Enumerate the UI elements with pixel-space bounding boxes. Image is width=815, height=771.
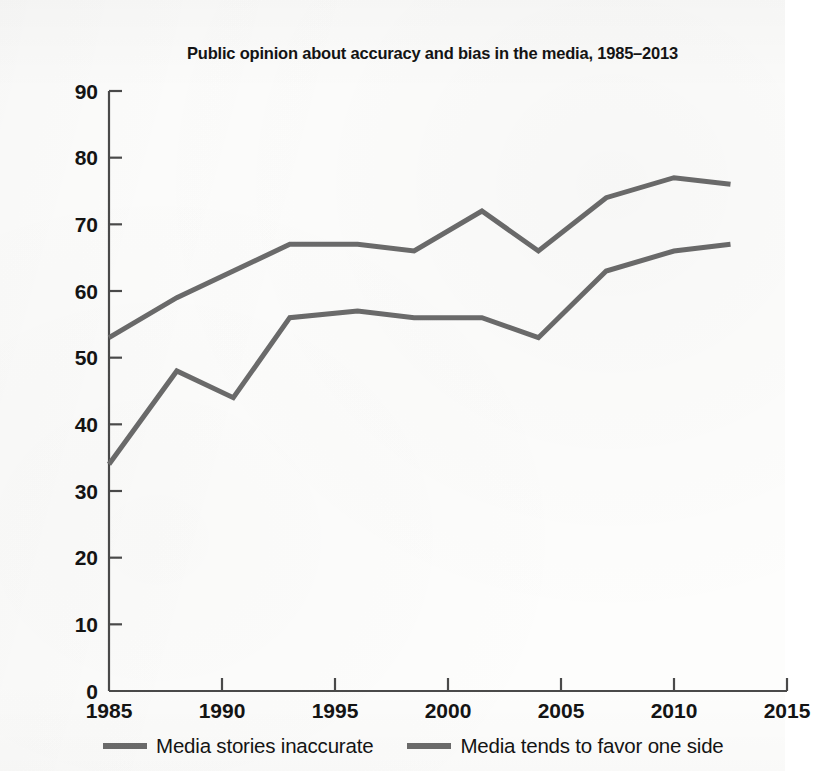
x-tick-label: 2000 bbox=[425, 699, 472, 722]
x-tick-label: 2005 bbox=[538, 699, 585, 722]
x-axis: 1985199019952000200520102015 bbox=[86, 678, 811, 722]
y-tick-label: 10 bbox=[75, 613, 98, 636]
y-tick-label: 50 bbox=[75, 346, 98, 369]
y-tick-label: 70 bbox=[75, 213, 98, 236]
y-axis: 0102030405060708090 bbox=[75, 80, 122, 703]
legend-swatch-icon bbox=[407, 743, 451, 749]
series-line-media-tends-to-favor-one-side bbox=[109, 244, 731, 464]
y-tick-label: 30 bbox=[75, 480, 98, 503]
x-tick-label: 1990 bbox=[199, 699, 246, 722]
legend-item-1: Media stories inaccurate bbox=[103, 734, 373, 758]
x-tick-label: 1985 bbox=[86, 699, 133, 722]
x-tick-label: 2015 bbox=[764, 699, 811, 722]
series-lines bbox=[109, 178, 731, 465]
y-tick-label: 40 bbox=[75, 413, 98, 436]
chart-legend: Media stories inaccurateMedia tends to f… bbox=[103, 734, 724, 758]
chart-plot-area: 0102030405060708090 19851990199520002005… bbox=[40, 16, 815, 771]
legend-label: Media stories inaccurate bbox=[156, 734, 373, 758]
legend-label: Media tends to favor one side bbox=[460, 734, 723, 758]
y-tick-label: 90 bbox=[75, 80, 98, 103]
x-tick-label: 1995 bbox=[312, 699, 359, 722]
legend-swatch-icon bbox=[103, 743, 147, 749]
legend-item-2: Media tends to favor one side bbox=[407, 734, 723, 758]
y-tick-label: 60 bbox=[75, 280, 98, 303]
series-line-media-stories-inaccurate bbox=[109, 178, 731, 338]
x-tick-label: 2010 bbox=[651, 699, 698, 722]
line-chart-figure: Public opinion about accuracy and bias i… bbox=[40, 16, 745, 755]
y-tick-label: 20 bbox=[75, 546, 98, 569]
y-tick-label: 80 bbox=[75, 146, 98, 169]
